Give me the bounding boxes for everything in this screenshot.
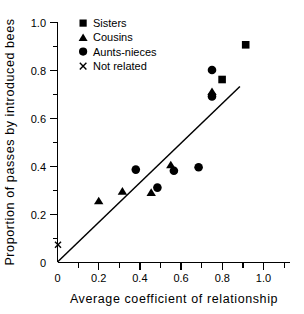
data-point-cousins: [118, 187, 127, 195]
x-tick-label: 1.0: [256, 272, 271, 284]
x-tick-label: 0.2: [91, 272, 106, 284]
legend-label-not-related: Not related: [93, 60, 147, 72]
legend-marker-triangle: [79, 34, 88, 41]
y-tick-label: 0.8: [31, 65, 46, 77]
scatter-chart-figure: 1.0 0.8 0.6 0.4 0.2 0 0 0.2 0.4 0.6 0.8 …: [0, 0, 304, 314]
x-tick-label: 0: [54, 272, 60, 284]
data-point-aunts-nieces: [208, 66, 217, 75]
x-axis-title: Average coefficient of relationship: [70, 292, 278, 306]
data-point-aunts-nieces: [153, 183, 162, 192]
data-points-group: [55, 41, 250, 248]
legend-label-aunts-nieces: Aunts-nieces: [93, 46, 157, 58]
legend-label-cousins: Cousins: [93, 31, 133, 43]
y-axis-tick-labels: 1.0 0.8 0.6 0.4 0.2 0: [31, 17, 46, 269]
legend-marker-square: [80, 20, 87, 27]
y-tick-label: 0: [40, 257, 46, 269]
regression-line: [58, 87, 240, 263]
x-tick-label: 0.4: [132, 272, 147, 284]
legend: Sisters Cousins Aunts-nieces Not related: [79, 17, 157, 72]
data-point-aunts-nieces: [132, 165, 141, 174]
data-point-aunts-nieces: [170, 167, 179, 176]
y-axis-ticks: [50, 23, 58, 239]
data-point-sisters: [218, 76, 226, 84]
y-tick-label: 0.4: [31, 161, 46, 173]
y-tick-label: 1.0: [31, 17, 46, 29]
legend-label-sisters: Sisters: [93, 17, 127, 29]
x-axis-tick-labels: 0 0.2 0.4 0.6 0.8 1.0: [54, 272, 271, 284]
data-point-aunts-nieces: [208, 92, 217, 101]
y-tick-label: 0.6: [31, 113, 46, 125]
x-tick-label: 0.6: [173, 272, 188, 284]
data-point-cousins: [94, 197, 103, 205]
legend-marker-circle: [79, 48, 87, 56]
x-axis-ticks: [78, 263, 284, 271]
plot-canvas: 1.0 0.8 0.6 0.4 0.2 0 0 0.2 0.4 0.6 0.8 …: [0, 0, 304, 314]
y-tick-label: 0.2: [31, 209, 46, 221]
legend-marker-x: [80, 63, 87, 70]
data-point-sisters: [242, 41, 250, 49]
data-point-aunts-nieces: [194, 163, 203, 172]
axes-group: [58, 22, 291, 263]
x-tick-label: 0.8: [215, 272, 230, 284]
y-axis-title: Proportion of passes by introduced bees: [3, 18, 17, 265]
